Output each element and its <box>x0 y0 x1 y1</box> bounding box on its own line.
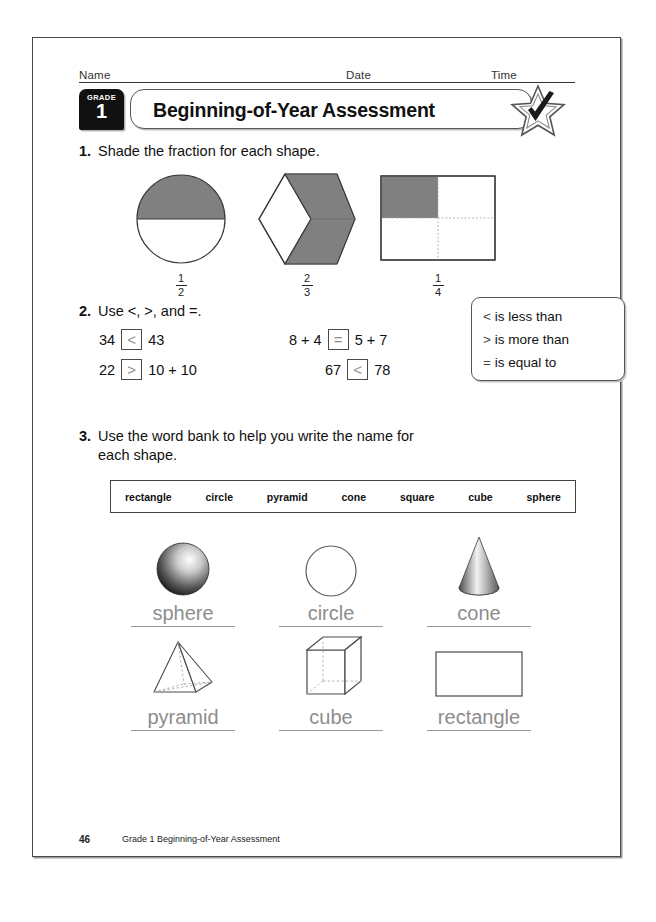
legend-symbol: < <box>483 309 491 324</box>
word-bank-item-rectangle[interactable]: rectangle <box>125 491 172 503</box>
answer-box[interactable]: < <box>121 329 142 350</box>
page-number: 46 <box>79 834 90 845</box>
shape-answer-cell-cone: cone <box>405 526 553 627</box>
answer-symbol: < <box>348 360 367 379</box>
shape-square-quarter-shaded[interactable] <box>379 174 497 266</box>
legend-symbol: = <box>483 355 491 370</box>
footer-title: Grade 1 Beginning-of-Year Assessment <box>122 834 280 844</box>
cone-icon <box>405 526 553 600</box>
problem-3-text-line2: each shape. <box>98 447 177 463</box>
worksheet-page: Name Date Time GRADE 1 Beginning-of-Year… <box>0 0 656 922</box>
answer-box[interactable]: > <box>121 359 142 380</box>
date-label: Date <box>346 69 371 81</box>
equation-row-3: 22 > 10 + 10 <box>99 359 197 380</box>
fraction-numerator: 1 <box>166 273 196 284</box>
pyramid-icon <box>109 630 257 704</box>
word-bank-item-square[interactable]: square <box>400 491 434 503</box>
legend-row-more-than: > is more than <box>483 328 624 351</box>
problem-2-text: Use <, >, and =. <box>98 303 202 319</box>
worksheet-sheet: Name Date Time GRADE 1 Beginning-of-Year… <box>32 37 621 857</box>
shape-hexagon-thirds-shaded[interactable] <box>255 171 359 271</box>
word-bank-item-cube[interactable]: cube <box>468 491 493 503</box>
problem-1-text: Shade the fraction for each shape. <box>98 143 320 159</box>
word-bank: rectangle circle pyramid cone square cub… <box>110 480 576 513</box>
equation-left: 8 + 4 <box>289 332 322 348</box>
fraction-denominator: 4 <box>423 287 453 298</box>
title-box: Beginning-of-Year Assessment <box>130 89 532 129</box>
comparison-legend: < is less than > is more than = is equal… <box>471 297 625 381</box>
equation-right: 78 <box>374 362 390 378</box>
legend-row-equal-to: = is equal to <box>483 351 624 374</box>
word-bank-item-sphere[interactable]: sphere <box>527 491 561 503</box>
shape-answer-cell-circle: circle <box>257 526 405 627</box>
problem-2-number: 2. <box>79 303 91 319</box>
fraction-denominator: 2 <box>166 287 196 298</box>
shape-answer-cone[interactable]: cone <box>427 602 531 627</box>
answer-box[interactable]: < <box>347 359 368 380</box>
shape-answer-circle[interactable]: circle <box>279 602 383 627</box>
circle-icon <box>257 526 405 600</box>
time-label: Time <box>491 69 517 81</box>
shape-answer-rectangle[interactable]: rectangle <box>427 706 531 731</box>
shape-answer-cube[interactable]: cube <box>279 706 383 731</box>
problem-1-number: 1. <box>79 143 91 159</box>
equation-right: 43 <box>148 332 164 348</box>
word-bank-item-cone[interactable]: cone <box>342 491 367 503</box>
shape-circle-half-shaded[interactable] <box>133 171 229 271</box>
page-title: Beginning-of-Year Assessment <box>153 99 435 122</box>
word-bank-item-circle[interactable]: circle <box>206 491 233 503</box>
title-bar: GRADE 1 Beginning-of-Year Assessment <box>79 88 579 131</box>
answer-box[interactable]: = <box>328 329 349 350</box>
legend-meaning: is more than <box>495 332 569 347</box>
fraction-denominator: 3 <box>292 287 322 298</box>
name-date-time-line: Name Date Time <box>79 61 575 83</box>
shape-answer-cell-sphere: sphere <box>109 526 257 627</box>
shape-answer-cell-pyramid: pyramid <box>109 630 257 731</box>
sphere-icon <box>109 526 257 600</box>
equation-row-2: 8 + 4 = 5 + 7 <box>289 329 387 350</box>
problem-3-text-line1: Use the word bank to help you write the … <box>98 428 414 444</box>
shape-answer-sphere[interactable]: sphere <box>131 602 235 627</box>
name-label: Name <box>79 69 110 81</box>
rectangle-icon <box>405 630 553 704</box>
star-check-icon <box>509 82 567 138</box>
grade-number: 1 <box>79 101 124 122</box>
fraction-label-1: 1 2 <box>166 273 196 298</box>
equation-right: 5 + 7 <box>355 332 388 348</box>
answer-symbol: < <box>122 330 141 349</box>
fraction-numerator: 1 <box>423 273 453 284</box>
grade-badge: GRADE 1 <box>79 89 124 130</box>
answer-symbol: = <box>329 330 348 349</box>
equation-left: 22 <box>99 362 115 378</box>
fraction-label-2: 2 3 <box>292 273 322 298</box>
legend-meaning: is equal to <box>495 355 557 370</box>
equation-left: 34 <box>99 332 115 348</box>
shape-answer-pyramid[interactable]: pyramid <box>131 706 235 731</box>
shape-answer-cell-rectangle: rectangle <box>405 630 553 731</box>
fraction-numerator: 2 <box>292 273 322 284</box>
equation-left: 67 <box>325 362 341 378</box>
equation-row-1: 34 < 43 <box>99 329 164 350</box>
answer-symbol: > <box>122 360 141 379</box>
legend-symbol: > <box>483 332 491 347</box>
cube-icon <box>257 630 405 704</box>
fraction-label-3: 1 4 <box>423 273 453 298</box>
equation-right: 10 + 10 <box>148 362 197 378</box>
shape-answer-cell-cube: cube <box>257 630 405 731</box>
equation-row-4: 67 < 78 <box>325 359 390 380</box>
legend-meaning: is less than <box>495 309 563 324</box>
word-bank-item-pyramid[interactable]: pyramid <box>267 491 308 503</box>
problem-3-number: 3. <box>79 428 91 444</box>
legend-row-less-than: < is less than <box>483 305 624 328</box>
